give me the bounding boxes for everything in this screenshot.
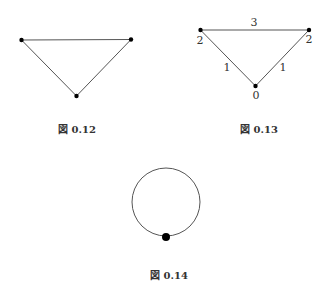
caption-fig-0-12: 図 0.12 xyxy=(58,121,96,136)
edge-label-right: 1 xyxy=(280,61,287,74)
figure-0-13-graph: 3 1 1 2 2 0 xyxy=(197,16,313,102)
figure-0-12-graph xyxy=(19,37,133,98)
edge-label-top: 3 xyxy=(251,16,258,29)
caption-fig-0-13: 図 0.13 xyxy=(240,121,278,136)
vertex-label-bottom: 0 xyxy=(253,89,260,102)
figures-canvas: 3 1 1 2 2 0 xyxy=(0,0,331,285)
edge-label-left: 1 xyxy=(224,61,231,74)
vertex-right xyxy=(307,28,311,32)
vertex-right xyxy=(129,37,133,41)
vertex xyxy=(162,233,170,241)
edge-right xyxy=(77,40,132,97)
edge-left xyxy=(201,30,256,86)
edge-left xyxy=(22,40,77,96)
caption-fig-0-14: 図 0.14 xyxy=(150,267,188,282)
vertex-left xyxy=(19,38,23,42)
vertex-label-left: 2 xyxy=(197,34,204,47)
vertex-left xyxy=(198,28,202,32)
vertex-bottom xyxy=(74,94,78,98)
loop-edge xyxy=(132,168,200,236)
edge-right xyxy=(256,30,310,86)
edge-top xyxy=(22,40,132,41)
vertex-label-right: 2 xyxy=(306,33,313,46)
vertex-bottom xyxy=(253,84,257,88)
figure-0-14-loop xyxy=(132,168,200,241)
